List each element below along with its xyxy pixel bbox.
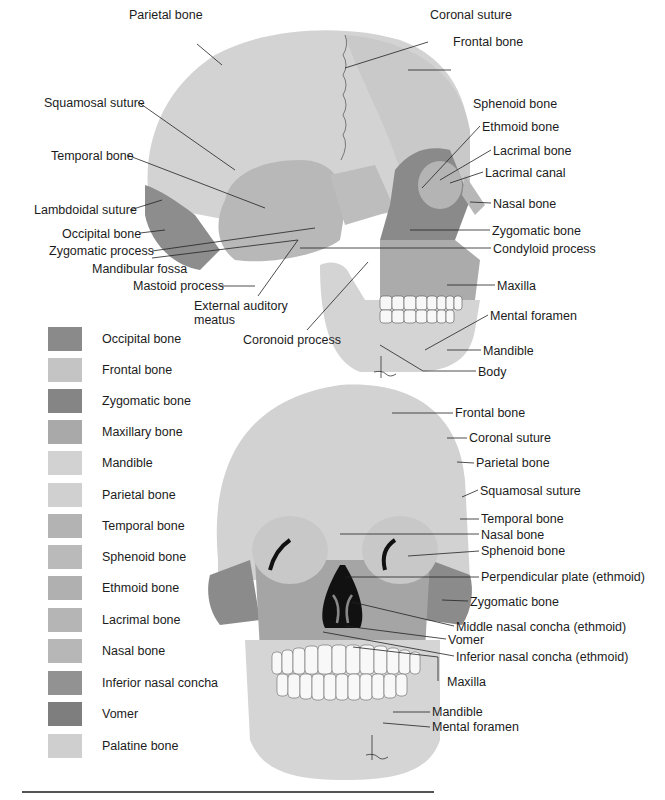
swatch — [48, 608, 82, 632]
label-nasal-bone: Nasal bone — [481, 528, 544, 542]
label-nasal-bone: Nasal bone — [493, 197, 556, 211]
swatch — [48, 514, 82, 538]
bottom-divider — [22, 791, 434, 793]
swatch — [48, 671, 82, 695]
label-ethmoid-bone: Ethmoid bone — [482, 120, 559, 134]
label-parietal-bone: Parietal bone — [129, 8, 203, 22]
label-middle-nasal-concha: Middle nasal concha (ethmoid) — [456, 620, 626, 634]
label-coronoid-process: Coronoid process — [243, 333, 341, 347]
label-body: Body — [478, 365, 507, 379]
legend-item-zygomatic: Zygomatic bone — [48, 389, 191, 413]
label-zygomatic-bone: Zygomatic bone — [492, 224, 581, 238]
orbit-left — [252, 516, 328, 584]
label-vomer: Vomer — [448, 633, 484, 647]
label-sphenoid-bone: Sphenoid bone — [473, 97, 557, 111]
label-mental-foramen: Mental foramen — [432, 720, 519, 734]
label-meatus: meatus — [194, 313, 235, 327]
label-mastoid-process: Mastoid process — [133, 279, 224, 293]
lateral-skull — [127, 30, 495, 378]
legend-item-sphenoid: Sphenoid bone — [48, 545, 186, 569]
swatch — [48, 639, 82, 663]
swatch — [48, 734, 82, 758]
label-temporal-bone: Temporal bone — [51, 149, 134, 163]
swatch — [48, 483, 82, 507]
legend-item-vomer: Vomer — [48, 702, 138, 726]
label-temporal-bone: Temporal bone — [481, 512, 564, 526]
label-perpendicular-plate: Perpendicular plate (ethmoid) — [481, 570, 645, 584]
skull-diagram: Parietal bone Coronal suture Frontal bon… — [0, 0, 665, 800]
label-lacrimal-bone: Lacrimal bone — [493, 144, 572, 158]
label-occipital-bone: Occipital bone — [62, 227, 141, 241]
legend-item-occipital: Occipital bone — [48, 327, 181, 351]
label-mandibular-fossa: Mandibular fossa — [92, 262, 187, 276]
label-zygomatic-bone: Zygomatic bone — [470, 595, 559, 609]
swatch — [48, 327, 82, 351]
swatch — [48, 702, 82, 726]
legend-item-frontal: Frontal bone — [48, 358, 172, 382]
legend-item-maxillary: Maxillary bone — [48, 420, 183, 444]
label-mental-foramen: Mental foramen — [490, 309, 577, 323]
label-squamosal-suture: Squamosal suture — [480, 484, 581, 498]
legend-item-parietal: Parietal bone — [48, 483, 176, 507]
swatch — [48, 451, 82, 475]
label-inferior-nasal-concha: Inferior nasal concha (ethmoid) — [456, 650, 628, 664]
label-external-auditory: External auditory — [194, 299, 288, 313]
label-lacrimal-canal: Lacrimal canal — [485, 166, 566, 180]
label-condyloid-process: Condyloid process — [493, 242, 596, 256]
label-squamosal-suture: Squamosal suture — [44, 96, 145, 110]
swatch — [48, 389, 82, 413]
swatch — [48, 576, 82, 600]
swatch — [48, 545, 82, 569]
label-parietal-bone: Parietal bone — [476, 456, 550, 470]
label-maxilla: Maxilla — [497, 279, 536, 293]
legend-item-inferior-nasal-concha: Inferior nasal concha — [48, 671, 218, 695]
label-mandible: Mandible — [483, 344, 534, 358]
swatch — [48, 420, 82, 444]
label-mandible: Mandible — [432, 705, 483, 719]
label-frontal-bone: Frontal bone — [453, 35, 523, 49]
label-sphenoid-bone: Sphenoid bone — [481, 544, 565, 558]
maxilla-region — [380, 240, 480, 300]
legend-item-lacrimal: Lacrimal bone — [48, 608, 181, 632]
label-frontal-bone: Frontal bone — [455, 406, 525, 420]
label-maxilla: Maxilla — [447, 675, 486, 689]
label-zygomatic-process: Zygomatic process — [49, 244, 154, 258]
legend-item-nasal: Nasal bone — [48, 639, 165, 663]
legend-item-ethmoid: Ethmoid bone — [48, 576, 179, 600]
legend-item-temporal: Temporal bone — [48, 514, 185, 538]
legend-item-mandible: Mandible — [48, 451, 153, 475]
label-coronal-suture: Coronal suture — [469, 431, 551, 445]
swatch — [48, 358, 82, 382]
label-lambdoidal-suture: Lambdoidal suture — [34, 203, 137, 217]
orbit-right — [362, 516, 438, 584]
legend-item-palatine: Palatine bone — [48, 734, 178, 758]
label-coronal-suture: Coronal suture — [430, 8, 512, 22]
